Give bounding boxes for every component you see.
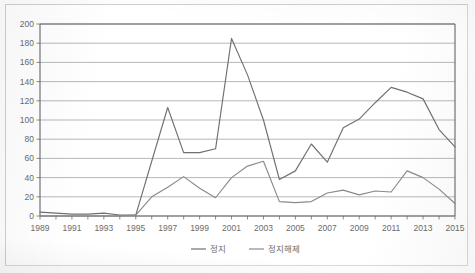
x-axis-tick-label: 2003: [254, 223, 273, 233]
chart-svg: 020406080100120140160180200 198919911993…: [0, 0, 475, 273]
y-axis-tick-label: 20: [25, 192, 35, 202]
data-series: [40, 38, 455, 216]
x-axis-tick-label: 2011: [382, 223, 401, 233]
x-axis-tick-label: 2015: [446, 223, 465, 233]
chart-legend: 정지정지해제: [191, 244, 300, 254]
gridlines: [40, 24, 455, 216]
y-axis-tick-label: 200: [20, 19, 34, 29]
x-axis-tick-label: 1993: [94, 223, 113, 233]
x-axis-tick-label: 2005: [286, 223, 305, 233]
x-axis-tick-label: 1995: [126, 223, 145, 233]
y-axis-tick-label: 40: [25, 173, 35, 183]
legend-label-2: 정지해제: [268, 244, 300, 254]
x-axis-tick-label: 1989: [31, 223, 50, 233]
x-axis-labels: 1989199119931995199719992001200320052007…: [31, 223, 465, 233]
y-axis-labels: 020406080100120140160180200: [20, 19, 34, 221]
x-axis-tick-label: 1991: [62, 223, 81, 233]
x-axis-tick-label: 1999: [190, 223, 209, 233]
x-axis-tick-label: 1997: [158, 223, 177, 233]
x-axis-tick-label: 2007: [318, 223, 337, 233]
line-chart: 020406080100120140160180200 198919911993…: [0, 0, 475, 273]
y-axis-tick-label: 140: [20, 77, 34, 87]
x-axis-tick-label: 2001: [222, 223, 241, 233]
y-axis-tick-label: 80: [25, 134, 35, 144]
y-axis-tick-label: 0: [29, 211, 34, 221]
scanned-chart-page: 020406080100120140160180200 198919911993…: [0, 0, 475, 273]
series-line-2: [40, 161, 455, 216]
y-axis-tick-label: 160: [20, 57, 34, 67]
y-axis-tick-label: 120: [20, 96, 34, 106]
x-axis-tick-label: 2009: [350, 223, 369, 233]
y-axis-tick-label: 100: [20, 115, 34, 125]
y-axis-tick-label: 180: [20, 38, 34, 48]
series-line-1: [40, 38, 455, 215]
legend-label-1: 정지: [210, 244, 226, 254]
x-axis-tick-label: 2013: [414, 223, 433, 233]
y-axis-tick-label: 60: [25, 153, 35, 163]
